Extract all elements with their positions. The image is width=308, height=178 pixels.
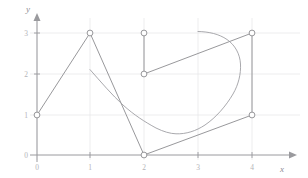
x-tick-label-2: 2	[142, 163, 146, 172]
marked-points-group	[34, 30, 255, 158]
curves-group	[37, 32, 252, 156]
x-tick-label-1: 1	[88, 163, 92, 172]
grid-group	[30, 18, 300, 160]
y-tick-label-0: 0	[24, 151, 28, 160]
plot-figure: 3 2 1 0 0 1 2 3 4 x y	[0, 0, 308, 178]
x-tick-label-4: 4	[250, 163, 254, 172]
x-tick-label-0: 0	[35, 163, 39, 172]
y-axis-arrow-icon	[34, 13, 41, 21]
data-point-4-1	[249, 112, 255, 118]
data-point-4-3	[249, 30, 255, 36]
tick-labels-group: 3 2 1 0 0 1 2 3 4 x y	[24, 4, 284, 174]
y-tick-label-2: 2	[24, 70, 28, 79]
x-axis-label: x	[279, 164, 284, 174]
smooth-curve-path	[90, 32, 241, 134]
axes-group	[30, 13, 297, 162]
data-point-2-3	[141, 30, 147, 36]
y-tick-label-1: 1	[24, 111, 28, 120]
data-point-2-2	[141, 71, 147, 77]
data-point-0-1	[34, 112, 40, 118]
line-branch-1	[37, 33, 144, 155]
plot-canvas: 3 2 1 0 0 1 2 3 4 x y	[0, 0, 308, 178]
x-axis-arrow-icon	[289, 152, 297, 159]
data-point-2-0	[141, 152, 147, 158]
data-point-1-3	[87, 30, 93, 36]
y-axis-label: y	[25, 4, 30, 14]
y-tick-label-3: 3	[24, 29, 28, 38]
x-tick-label-3: 3	[196, 163, 200, 172]
